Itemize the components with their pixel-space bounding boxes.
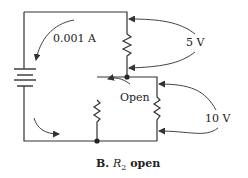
return-arrow-icon bbox=[34, 118, 59, 134]
voltage-5v-arrow-bottom-icon bbox=[129, 52, 195, 68]
voltage-5v-label: 5 V bbox=[186, 36, 205, 49]
current-label: 0.001 A bbox=[53, 32, 97, 45]
circuit-diagram: 0.001 A 5 V 10 V Open B. R2 open bbox=[0, 0, 248, 178]
resistor-r3-icon bbox=[154, 97, 160, 141]
resistor-r1-icon bbox=[123, 30, 131, 77]
open-label: Open bbox=[120, 91, 150, 104]
junction-dot-bottom bbox=[94, 138, 99, 143]
voltage-5v-arrow-top-icon bbox=[129, 19, 195, 34]
figure-caption: B. R2 open bbox=[96, 157, 160, 172]
battery-icon bbox=[14, 69, 36, 86]
voltage-10v-arrow-top-icon bbox=[159, 84, 216, 110]
voltage-10v-label: 10 V bbox=[205, 112, 231, 125]
top-wire bbox=[24, 12, 127, 30]
resistor-r2-icon bbox=[94, 100, 100, 141]
voltage-10v-arrow-bottom-icon bbox=[159, 128, 218, 133]
